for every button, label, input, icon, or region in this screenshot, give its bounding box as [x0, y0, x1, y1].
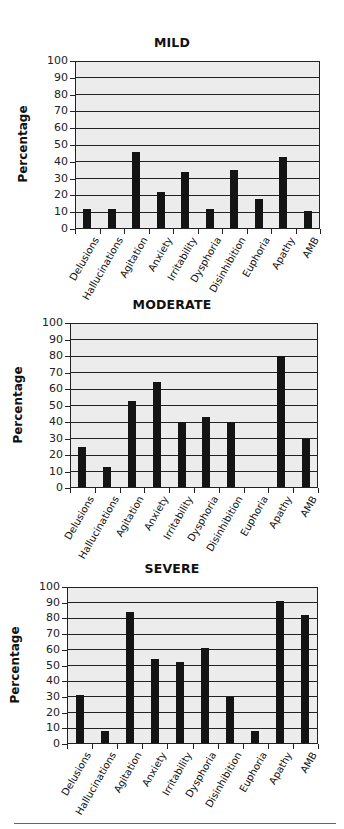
x-tick	[293, 744, 294, 749]
y-tick-label: 30	[34, 691, 60, 702]
y-tick-label: 0	[37, 482, 63, 493]
y-tick-label: 40	[34, 675, 60, 686]
y-tick-label: 20	[34, 707, 60, 718]
chart-title: MILD	[0, 35, 344, 50]
gridline	[71, 339, 317, 340]
x-tick-label: Apathy	[267, 494, 294, 530]
x-tick	[92, 744, 93, 749]
y-tick-label: 70	[34, 628, 60, 639]
bar-irritability	[178, 422, 186, 487]
bar-apathy	[279, 157, 287, 228]
x-tick	[120, 488, 121, 493]
bar-amb	[304, 211, 312, 228]
bar-irritability	[176, 662, 184, 743]
bar-dysphoria	[202, 417, 210, 487]
gridline	[76, 111, 319, 112]
y-tick-label: 40	[42, 156, 68, 167]
x-tick	[149, 229, 150, 234]
bar-apathy	[276, 601, 284, 743]
x-tick	[318, 488, 319, 493]
x-tick	[198, 229, 199, 234]
x-tick	[95, 488, 96, 493]
gridline	[76, 128, 319, 129]
x-tick	[144, 488, 145, 493]
x-tick	[173, 229, 174, 234]
y-tick-label: 60	[34, 644, 60, 655]
y-tick-label: 30	[37, 433, 63, 444]
x-tick	[194, 488, 195, 493]
bar-hallucinations	[101, 731, 109, 743]
x-tick	[247, 229, 248, 234]
x-tick	[222, 229, 223, 234]
chart-title: MODERATE	[0, 297, 344, 312]
bar-euphoria	[255, 199, 263, 228]
bar-delusions	[78, 447, 86, 487]
bar-disinhibition	[226, 697, 234, 743]
y-tick-label: 60	[42, 122, 68, 133]
plot-area	[70, 323, 318, 488]
bar-amb	[301, 615, 309, 743]
y-tick-label: 10	[37, 466, 63, 477]
bar-apathy	[277, 356, 285, 487]
x-tick	[293, 488, 294, 493]
x-tick	[124, 229, 125, 234]
y-tick-label: 20	[37, 449, 63, 460]
bar-hallucinations	[108, 209, 116, 228]
bar-irritability	[181, 172, 189, 228]
y-axis-title: Percentage	[16, 99, 30, 189]
plot-area	[75, 61, 320, 229]
y-tick-label: 70	[42, 105, 68, 116]
chart-title: SEVERE	[0, 561, 344, 576]
bar-anxiety	[157, 192, 165, 228]
y-tick-label: 100	[37, 317, 63, 328]
bar-delusions	[76, 695, 84, 743]
y-tick-label: 10	[42, 206, 68, 217]
y-tick-label: 30	[42, 173, 68, 184]
y-tick-label: 70	[37, 367, 63, 378]
bar-euphoria	[251, 731, 259, 743]
y-tick-label: 100	[34, 581, 60, 592]
x-tick	[142, 744, 143, 749]
x-tick	[100, 229, 101, 234]
bar-dysphoria	[206, 209, 214, 228]
y-tick-label: 90	[42, 72, 68, 83]
bar-hallucinations	[103, 467, 111, 487]
bottom-divider	[14, 823, 336, 824]
x-tick-label: AMB	[301, 235, 322, 260]
x-tick	[320, 229, 321, 234]
x-tick	[75, 229, 76, 234]
x-tick-label: AMB	[298, 750, 319, 775]
y-tick-label: 90	[37, 334, 63, 345]
x-tick	[219, 488, 220, 493]
bar-dysphoria	[201, 648, 209, 743]
bar-amb	[302, 439, 310, 488]
plot-area	[67, 587, 318, 744]
y-tick-label: 50	[42, 139, 68, 150]
x-tick	[218, 744, 219, 749]
x-tick	[117, 744, 118, 749]
bar-anxiety	[153, 382, 161, 487]
gridline	[76, 94, 319, 95]
y-tick-label: 80	[37, 350, 63, 361]
bar-agitation	[132, 152, 140, 228]
y-tick-label: 80	[42, 89, 68, 100]
y-axis-title: Percentage	[8, 620, 22, 710]
y-tick-label: 40	[37, 416, 63, 427]
gridline	[76, 77, 319, 78]
bar-anxiety	[151, 659, 159, 743]
y-tick-label: 50	[34, 660, 60, 671]
gridline	[76, 145, 319, 146]
x-tick-label: AMB	[298, 494, 319, 519]
y-tick-label: 0	[42, 223, 68, 234]
x-tick	[243, 744, 244, 749]
bar-disinhibition	[227, 422, 235, 487]
x-tick	[268, 488, 269, 493]
x-tick	[169, 488, 170, 493]
x-tick	[271, 229, 272, 234]
x-tick	[167, 744, 168, 749]
x-tick	[268, 744, 269, 749]
y-axis-title: Percentage	[11, 360, 25, 450]
x-tick-label: Apathy	[270, 235, 297, 271]
y-tick-label: 100	[42, 55, 68, 66]
y-tick-label: 90	[34, 597, 60, 608]
